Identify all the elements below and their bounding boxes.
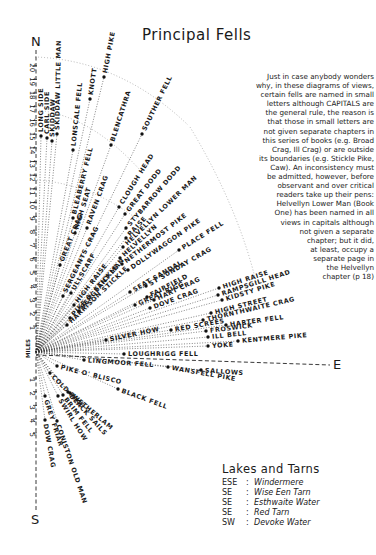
fell-summit-dot xyxy=(50,139,53,142)
fell-summit-dot xyxy=(117,205,120,208)
fell-view-diagram: 123456789101112131415161718192012345 LON… xyxy=(0,0,376,555)
north-scale-label: 12 xyxy=(28,173,36,182)
separator: : xyxy=(246,478,254,488)
lake-name: Wise Een Tarn xyxy=(254,488,311,498)
lakes-and-tarns-legend: Lakes and Tarns ESE:WindermereSE:Wise Ee… xyxy=(222,462,372,528)
lake-entry: SE:Red Tarn xyxy=(222,508,372,518)
lake-direction: SE xyxy=(222,508,246,518)
fell-summit-dot xyxy=(133,303,136,306)
fell-summit-dot xyxy=(48,371,51,374)
south-scale-label: 2 xyxy=(28,391,36,395)
south-scale-label: 3 xyxy=(28,405,36,409)
compass-south: S xyxy=(31,512,39,527)
fell-summit-dot xyxy=(177,248,180,251)
lake-entry: SW:Devoke Water xyxy=(222,518,372,528)
fell-summit-dot xyxy=(102,75,105,78)
fell-summit-dot xyxy=(88,97,91,100)
north-scale-label: 18 xyxy=(28,91,36,100)
fell-label: WANSFELL PIKE xyxy=(171,364,236,383)
fell-summit-dot xyxy=(140,132,143,135)
fell-summit-dot xyxy=(116,387,119,390)
fell-summit-dot xyxy=(43,394,46,397)
north-scale-label: 8 xyxy=(28,230,36,234)
sight-line xyxy=(36,300,154,352)
north-scale-label: 20 xyxy=(28,63,36,72)
lake-direction: SE xyxy=(222,498,246,508)
fell-summit-dot xyxy=(71,148,74,151)
north-scale-label: 4 xyxy=(28,285,36,290)
lake-direction: SE xyxy=(222,488,246,498)
north-scale-label: 1 xyxy=(28,326,36,330)
fell-label: HIGH PIKE xyxy=(101,31,117,74)
fell-summit-dot xyxy=(217,286,220,289)
north-scale-label: 17 xyxy=(28,104,36,113)
fell-summit-dot xyxy=(65,323,68,326)
fell-summit-dot xyxy=(43,418,46,421)
fell-summit-dot xyxy=(123,212,126,215)
fell-label: YOKE xyxy=(211,340,234,350)
fell-summit-dot xyxy=(236,339,239,342)
fell-summit-dot xyxy=(148,306,151,309)
fell-label: SOUTHER FELL xyxy=(140,74,174,132)
page-title: Principal Fells xyxy=(142,26,251,44)
separator: : xyxy=(246,518,254,528)
lake-name: Windermere xyxy=(254,478,303,488)
fell-label: KENTMERE PIKE xyxy=(242,331,308,345)
south-scale-label: 5 xyxy=(28,433,36,437)
fell-summit-dot xyxy=(104,338,107,341)
fell-summit-dot xyxy=(69,291,72,294)
fell-label: BLENCATHRA xyxy=(109,89,133,142)
fell-summit-dot xyxy=(39,134,42,137)
miles-label: MILES xyxy=(25,339,31,358)
fell-label: SKIDDAW LITTLE MAN xyxy=(53,40,63,130)
legend-title: Lakes and Tarns xyxy=(222,462,372,476)
north-scale-label: 2 xyxy=(28,312,36,316)
sight-line xyxy=(36,138,47,352)
fell-summit-dot xyxy=(166,365,169,368)
north-scale-label: 15 xyxy=(28,132,36,141)
separator: : xyxy=(246,508,254,518)
fell-summit-dot xyxy=(58,263,61,266)
north-scale-label: 19 xyxy=(28,77,36,86)
south-scale-label: 1 xyxy=(28,378,36,382)
sight-line xyxy=(36,352,45,420)
fell-summit-dot xyxy=(206,344,209,347)
north-scale-label: 6 xyxy=(28,257,36,262)
north-scale-label: 13 xyxy=(28,159,36,168)
fell-summit-dot xyxy=(128,290,131,293)
lake-name: Red Tarn xyxy=(254,508,289,518)
north-scale-label: 14 xyxy=(28,145,36,154)
lake-direction: SW xyxy=(222,518,246,528)
fell-summit-dot xyxy=(55,364,58,367)
fell-label: KNOTT xyxy=(87,67,99,95)
lake-entry: SE:Esthwaite Water xyxy=(222,498,372,508)
fell-summit-dot xyxy=(122,352,125,355)
fell-summit-dot xyxy=(206,335,209,338)
fell-label: LONSCALE FELL xyxy=(70,82,85,147)
north-scale-label: 5 xyxy=(28,271,36,275)
fell-summit-dot xyxy=(61,294,64,297)
north-scale-label: 10 xyxy=(28,200,36,209)
fell-summit-dot xyxy=(169,328,172,331)
fell-summit-dot xyxy=(216,293,219,296)
fell-summit-dot xyxy=(61,393,64,396)
north-scale-label: 16 xyxy=(28,118,36,127)
north-scale-label: 3 xyxy=(28,298,36,302)
south-scale-label: 4 xyxy=(28,419,36,424)
compass-east: E xyxy=(333,357,341,372)
fell-summit-dot xyxy=(204,329,207,332)
fell-label: PIKE O' BLISCO xyxy=(60,363,123,386)
fell-summit-dot xyxy=(56,394,59,397)
sight-line xyxy=(36,141,52,352)
separator: : xyxy=(246,488,254,498)
north-scale-label: 11 xyxy=(28,187,36,196)
sight-line xyxy=(36,352,57,366)
fell-label: LINGMOOR FELL xyxy=(88,356,154,369)
fell-summit-dot xyxy=(82,358,85,361)
fell-label: BLACK FELL xyxy=(120,387,168,411)
lake-direction: ESE xyxy=(222,478,246,488)
explanatory-note: Just in case anybody wonders why, in the… xyxy=(212,72,374,281)
lake-entry: ESE:Windermere xyxy=(222,478,372,488)
compass-north: N xyxy=(31,34,41,49)
north-scale-label: 9 xyxy=(28,216,36,220)
